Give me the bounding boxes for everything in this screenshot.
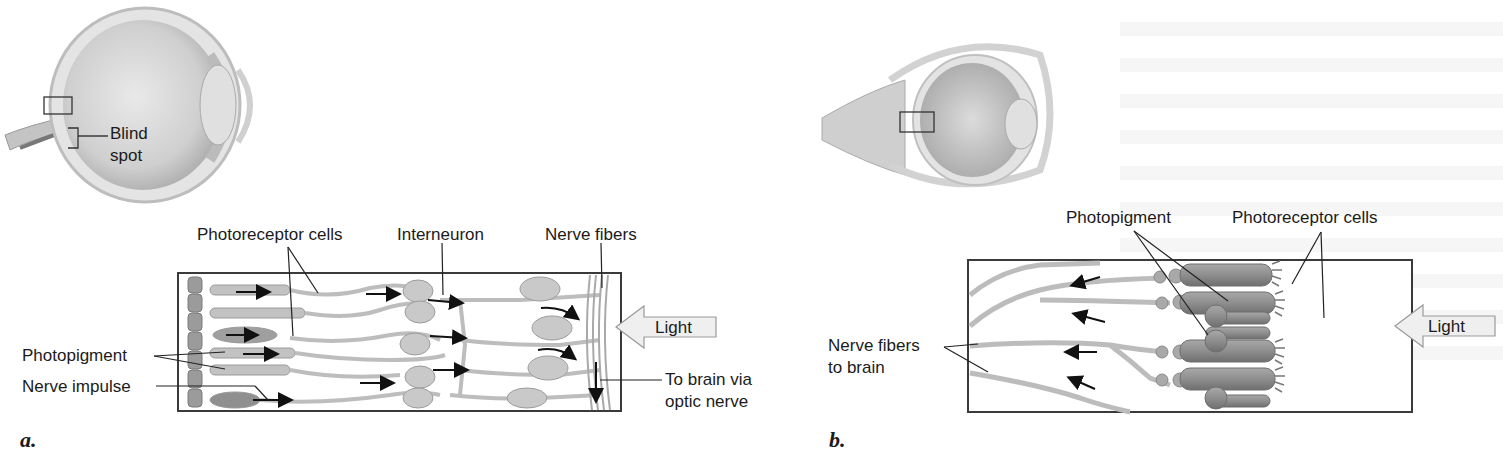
label-photopigment-a: Photopigment <box>22 346 127 366</box>
label-to-brain-line1: To brain via <box>665 370 752 390</box>
panel-letter-a: a. <box>20 427 37 453</box>
label-nerve-fibers-b-line2: to brain <box>828 358 885 378</box>
retina-section-a <box>154 243 662 411</box>
label-nerve-fibers-b-line1: Nerve fibers <box>828 336 920 356</box>
label-photopigment-b: Photopigment <box>1066 208 1171 228</box>
label-to-brain-line2: optic nerve <box>665 392 748 412</box>
label-photoreceptor-cells-b: Photoreceptor cells <box>1232 208 1378 228</box>
label-interneuron: Interneuron <box>397 225 484 245</box>
eye-illustration-a <box>5 8 250 202</box>
panel-letter-b: b. <box>829 427 846 453</box>
label-light-a: Light <box>655 318 692 338</box>
label-blind-spot-line1: Blind <box>110 124 148 144</box>
label-blind-spot-line2: spot <box>110 146 142 166</box>
retina-section-b <box>944 231 1412 412</box>
eye-illustration-b <box>822 47 1050 185</box>
label-photoreceptor-cells-a: Photoreceptor cells <box>197 225 343 245</box>
label-light-b: Light <box>1428 317 1465 337</box>
label-nerve-impulse: Nerve impulse <box>22 377 131 397</box>
label-nerve-fibers-a: Nerve fibers <box>545 225 637 245</box>
